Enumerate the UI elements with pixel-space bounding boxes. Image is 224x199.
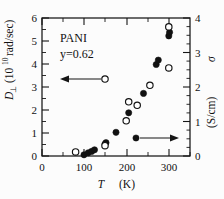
yright-axis-title-symbol: σ bbox=[205, 55, 217, 62]
series-sigma-open bbox=[72, 24, 172, 155]
yleft-ticklabel-6: 6 bbox=[32, 12, 38, 24]
data-point bbox=[155, 57, 161, 63]
yleft-title-subscript: ⊥ bbox=[9, 86, 18, 93]
data-point bbox=[140, 90, 146, 96]
yright-ticklabel-1: 1 bbox=[195, 116, 201, 128]
annotation-sample-label: PANI bbox=[60, 31, 87, 45]
yright-ticklabel-0: 0 bbox=[195, 150, 201, 162]
yleft-ticklabel-5: 5 bbox=[32, 35, 38, 47]
legend-marker-open-circle bbox=[102, 76, 108, 82]
yleft-title-unit-suffix: rad/sec) bbox=[3, 19, 16, 56]
annotation-composition-label: y=0.62 bbox=[60, 47, 94, 61]
yleft-ticklabel-2: 2 bbox=[32, 104, 38, 116]
yright-major-ticks bbox=[183, 18, 190, 156]
data-point bbox=[123, 118, 129, 124]
yleft-axis-title: D ⊥ (10 10 rad/sec) bbox=[1, 19, 18, 101]
yright-ticklabel-3: 3 bbox=[195, 47, 201, 59]
data-point bbox=[91, 147, 97, 153]
data-point bbox=[113, 129, 119, 135]
data-point bbox=[72, 149, 78, 155]
yleft-title-unit-exponent: 10 bbox=[1, 57, 10, 65]
data-point bbox=[166, 65, 172, 71]
yright-title-symbol: σ bbox=[205, 55, 217, 62]
yleft-ticklabel-4: 4 bbox=[32, 58, 38, 70]
top-axis-ticks bbox=[42, 18, 169, 25]
arrow-to-left-axis bbox=[60, 76, 101, 83]
yleft-ticklabel-0: 0 bbox=[32, 150, 38, 162]
yleft-title-unit-prefix: (10 bbox=[3, 67, 16, 83]
yleft-major-ticks bbox=[42, 18, 49, 156]
arrow-to-right-axis bbox=[140, 135, 179, 142]
yleft-ticklabel-3: 3 bbox=[32, 81, 38, 93]
legend-marker-filled-circle bbox=[133, 135, 139, 141]
xaxis-ticklabel-300: 300 bbox=[161, 161, 178, 173]
data-point bbox=[166, 24, 172, 30]
scatter-plot: 0 1 2 3 4 5 6 0 1 2 3 4 0 100 200 300 T … bbox=[0, 0, 224, 199]
data-point bbox=[102, 143, 108, 149]
yleft-ticklabel-1: 1 bbox=[32, 127, 38, 139]
yright-ticklabel-2: 2 bbox=[195, 81, 201, 93]
series-d-perp-filled bbox=[81, 29, 173, 158]
data-point bbox=[126, 99, 132, 105]
data-point bbox=[147, 82, 153, 88]
yright-axis-title-unit: (S/cm) bbox=[205, 97, 218, 128]
xaxis-title-symbol: T bbox=[98, 178, 106, 190]
xaxis-major-ticks bbox=[42, 149, 169, 156]
xaxis-ticklabel-100: 100 bbox=[76, 161, 93, 173]
xaxis-ticklabel-0: 0 bbox=[39, 161, 45, 173]
data-point bbox=[126, 110, 132, 116]
yright-title-unit: (S/cm) bbox=[205, 97, 218, 128]
xaxis-ticklabel-200: 200 bbox=[119, 161, 136, 173]
xaxis-title-unit: (K) bbox=[119, 178, 135, 191]
figure-container: 0 1 2 3 4 5 6 0 1 2 3 4 0 100 200 300 T … bbox=[0, 0, 224, 199]
data-point bbox=[134, 102, 140, 108]
yright-ticklabel-4: 4 bbox=[195, 12, 201, 24]
